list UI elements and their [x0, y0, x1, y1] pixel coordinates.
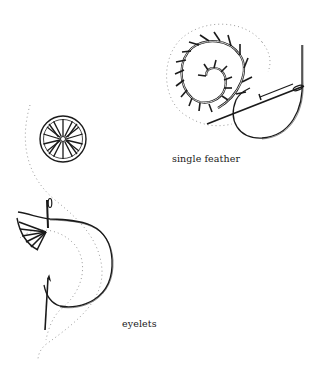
eyelets-caption: eyelets	[122, 318, 157, 329]
feather-needle	[207, 84, 304, 124]
eyelet-flower	[40, 116, 86, 162]
eyelets-illustration	[17, 105, 113, 360]
embroidery-illustration-canvas: single feather eyelets	[0, 0, 311, 378]
single-feather-caption: single feather	[172, 153, 240, 164]
single-feather-illustration	[167, 24, 304, 139]
eyelets-dotted-guide-inner	[20, 230, 83, 340]
eyelets-dotted-guide-upper	[25, 105, 102, 360]
